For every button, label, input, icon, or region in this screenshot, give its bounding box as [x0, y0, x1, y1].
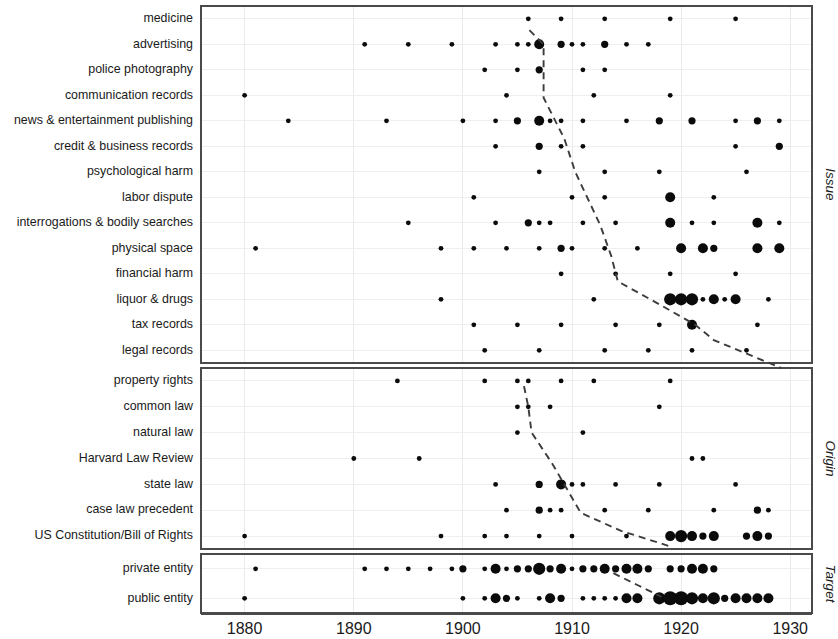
data-point — [450, 566, 455, 571]
data-point — [493, 118, 498, 123]
data-point — [515, 404, 520, 409]
data-point — [242, 534, 247, 539]
panel-label-origin: Origin — [823, 440, 838, 476]
data-point — [733, 482, 738, 487]
data-point — [688, 117, 695, 124]
data-point — [602, 169, 607, 174]
x-tick-label: 1890 — [336, 620, 372, 637]
data-point — [545, 593, 555, 603]
data-point — [701, 297, 706, 302]
y-tick-label: police photography — [88, 62, 194, 76]
y-tick-label: communication records — [65, 88, 193, 102]
data-point — [733, 271, 738, 276]
data-point — [731, 593, 741, 603]
data-point — [690, 220, 695, 225]
data-point — [504, 566, 509, 571]
data-point — [591, 596, 596, 601]
x-tick-label: 1880 — [227, 620, 263, 637]
data-point — [686, 293, 698, 305]
data-point — [537, 348, 542, 353]
data-point — [709, 294, 719, 304]
data-point — [559, 322, 564, 327]
data-point — [581, 67, 586, 72]
data-point — [536, 143, 543, 150]
data-point — [536, 507, 543, 514]
dot-plot-chart: medicineadvertisingpolice photographycom… — [0, 0, 838, 639]
data-point — [687, 564, 697, 574]
data-point — [461, 596, 466, 601]
data-point — [514, 565, 521, 572]
data-point — [612, 565, 619, 572]
data-point — [602, 195, 607, 200]
data-point — [504, 534, 509, 539]
data-point — [711, 508, 716, 513]
data-point — [558, 41, 565, 48]
data-point — [491, 593, 501, 603]
data-point — [526, 404, 531, 409]
data-point — [570, 246, 575, 251]
data-point — [687, 531, 697, 541]
data-point — [668, 16, 673, 21]
y-tick-label: psychological harm — [87, 164, 193, 178]
data-point — [559, 16, 564, 21]
data-point — [624, 118, 629, 123]
data-point — [570, 534, 575, 539]
data-point — [699, 533, 706, 540]
data-point — [602, 246, 607, 251]
data-point — [752, 531, 762, 541]
data-point — [515, 322, 520, 327]
data-point — [776, 143, 783, 150]
y-tick-label: Harvard Law Review — [79, 451, 193, 465]
y-tick-label: labor dispute — [122, 190, 193, 204]
data-point — [493, 220, 498, 225]
y-tick-label: news & entertainment publishing — [14, 113, 193, 127]
x-tick-label: 1910 — [554, 620, 590, 637]
data-point — [493, 42, 498, 47]
data-point — [526, 379, 531, 384]
plot-svg: medicineadvertisingpolice photographycom… — [0, 0, 838, 639]
data-point — [242, 596, 247, 601]
data-point — [286, 118, 291, 123]
data-point — [601, 41, 608, 48]
data-point — [548, 220, 553, 225]
data-point — [613, 322, 618, 327]
data-point — [721, 595, 728, 602]
data-point — [600, 564, 610, 574]
data-point — [579, 565, 586, 572]
data-point — [439, 534, 444, 539]
data-point — [504, 93, 509, 98]
data-point — [581, 144, 586, 149]
y-tick-label: medicine — [143, 11, 193, 25]
y-tick-label: property rights — [114, 373, 193, 387]
data-point — [515, 596, 520, 601]
data-point — [559, 508, 564, 513]
data-point — [461, 118, 466, 123]
data-point — [525, 565, 532, 572]
data-point — [253, 246, 258, 251]
data-point — [752, 218, 762, 228]
data-point — [754, 117, 761, 124]
data-point — [515, 379, 520, 384]
data-point — [690, 456, 695, 461]
data-point — [602, 348, 607, 353]
data-point — [525, 219, 532, 226]
y-tick-label: interrogations & bodily searches — [17, 215, 193, 229]
data-point — [766, 297, 771, 302]
data-point — [526, 16, 531, 21]
trend-line-target — [613, 573, 661, 597]
data-point — [657, 322, 662, 327]
data-point — [675, 530, 687, 542]
data-point — [733, 144, 738, 149]
data-point — [493, 482, 498, 487]
data-point — [711, 195, 716, 200]
data-point — [646, 42, 651, 47]
data-point — [722, 297, 727, 302]
data-point — [690, 348, 695, 353]
data-point — [624, 42, 629, 47]
data-point — [384, 566, 389, 571]
data-point — [733, 16, 738, 21]
data-point — [406, 566, 411, 571]
x-tick-label: 1930 — [772, 620, 808, 637]
y-tick-label: physical space — [112, 241, 193, 255]
data-point — [709, 531, 719, 541]
